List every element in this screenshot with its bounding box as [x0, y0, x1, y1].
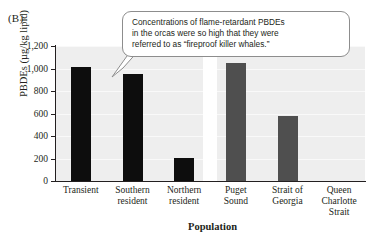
category-label-line: Transient	[53, 185, 109, 196]
category-label-line: resident	[105, 196, 161, 207]
y-tick-label: 1,000	[0, 64, 48, 74]
figure-panel-b: (B) PBDEs (µg/kg lipid) 02004006008001,0…	[0, 0, 373, 242]
category-label-line: Charlotte	[311, 196, 367, 207]
y-tick-mark	[51, 46, 55, 47]
y-tick-label: 800	[0, 86, 48, 96]
y-tick-mark	[51, 159, 55, 160]
category-label-line: resident	[156, 196, 212, 207]
bar	[174, 158, 194, 181]
category-label-line: Northern	[156, 185, 212, 196]
x-axis-category-label: QueenCharlotteStrait	[311, 185, 367, 218]
category-label-line: Queen	[311, 185, 367, 196]
y-tick-label: 1,200	[0, 41, 48, 51]
plot-area	[55, 46, 365, 181]
x-axis-category-label: PugetSound	[208, 185, 264, 207]
x-axis-category-label: Strait ofGeorgia	[260, 185, 316, 207]
bar	[278, 116, 298, 181]
x-axis-title: Population	[55, 221, 370, 232]
y-tick-mark	[51, 136, 55, 137]
group-separator	[203, 46, 217, 181]
y-tick-label: 600	[0, 109, 48, 119]
y-tick-mark	[51, 69, 55, 70]
y-tick-mark	[51, 114, 55, 115]
bar	[71, 67, 91, 181]
callout-line-2: in the orcas were so high that they were	[132, 28, 341, 39]
category-label-line: Sound	[208, 196, 264, 207]
category-label-line: Southern	[105, 185, 161, 196]
x-axis-category-label: Southernresident	[105, 185, 161, 207]
y-tick-label: 400	[0, 131, 48, 141]
category-label-line: Puget	[208, 185, 264, 196]
category-label-line: Strait of	[260, 185, 316, 196]
callout-line-1: Concentrations of flame-retardant PBDEs	[132, 17, 341, 28]
callout-annotation: Concentrations of flame-retardant PBDEs …	[122, 11, 350, 57]
y-axis-line	[55, 45, 56, 182]
callout-line-3: referred to as “fireproof killer whales.…	[132, 39, 341, 50]
y-tick-label: 0	[0, 176, 48, 186]
bar	[123, 74, 143, 181]
x-axis-category-label: Northernresident	[156, 185, 212, 207]
y-tick-mark	[51, 181, 55, 182]
y-tick-label: 200	[0, 154, 48, 164]
category-label-line: Strait	[311, 207, 367, 218]
category-label-line: Georgia	[260, 196, 316, 207]
y-tick-mark	[51, 91, 55, 92]
x-axis-line	[55, 181, 366, 182]
bar	[226, 63, 246, 181]
x-axis-category-label: Transient	[53, 185, 109, 196]
